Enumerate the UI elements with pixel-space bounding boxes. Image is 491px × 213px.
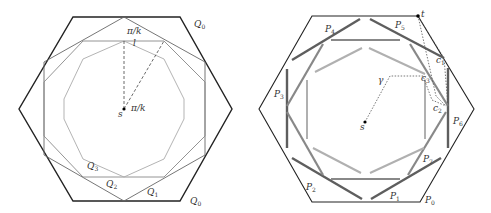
bars-inner: [307, 48, 425, 173]
label-l: l: [133, 38, 136, 48]
label-p7: P7: [422, 154, 433, 165]
label-p2: P2: [305, 182, 316, 193]
label-p6: P6: [452, 116, 463, 127]
right-figure: t s γ c1 c2 c3 P0 P1 P2 P3 P4 P5 P6 P7: [259, 9, 474, 206]
label-p5: P5: [394, 20, 405, 31]
label-t: t: [421, 9, 425, 19]
label-q0-bottom: Q0: [190, 196, 201, 207]
label-p4: P4: [324, 24, 335, 35]
label-c2: c2: [433, 103, 442, 114]
label-q3: Q3: [87, 161, 98, 172]
label-q1: Q1: [147, 187, 158, 198]
label-angle-center: π/k: [130, 103, 145, 113]
label-gamma: γ: [378, 75, 384, 85]
diagram-canvas: s π/k π/k l Q0 Q0 Q1 Q2 Q3: [0, 0, 491, 213]
point-s: [122, 107, 125, 110]
label-p0: P0: [424, 195, 435, 206]
label-q0-top: Q0: [194, 19, 205, 30]
bars-outer: [287, 19, 448, 199]
label-p1: P1: [389, 191, 400, 202]
left-figure: s π/k π/k l Q0 Q0 Q1 Q2 Q3: [19, 17, 232, 207]
label-s-right: s: [360, 122, 365, 132]
label-p3: P3: [273, 89, 284, 100]
label-q2: Q2: [106, 179, 117, 190]
label-s: s: [118, 109, 123, 119]
label-angle-top: π/k: [126, 26, 141, 36]
point-t: [416, 14, 420, 18]
dashed-radius-2: [124, 41, 164, 109]
